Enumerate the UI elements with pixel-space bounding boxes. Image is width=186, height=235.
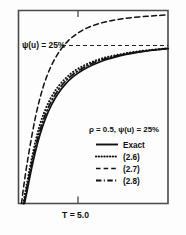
legend-label-2-8: (2.8) — [123, 177, 140, 186]
x-axis-label: T = 5.0 — [62, 210, 89, 220]
psi-reference-label: ψ(u) = 25% — [22, 40, 66, 50]
figure-background — [0, 0, 186, 235]
figure-container: ψ(u) = 25% ρ = 0.5, ψ(u) = 25% Exact (2.… — [0, 0, 186, 235]
legend-title: ρ = 0.5, ψ(u) = 25% — [89, 125, 159, 134]
legend-label-2-6: (2.6) — [123, 153, 140, 162]
legend-label-exact: Exact — [123, 141, 145, 150]
legend-label-2-7: (2.7) — [123, 165, 140, 174]
chart-canvas: ψ(u) = 25% ρ = 0.5, ψ(u) = 25% Exact (2.… — [0, 0, 186, 235]
